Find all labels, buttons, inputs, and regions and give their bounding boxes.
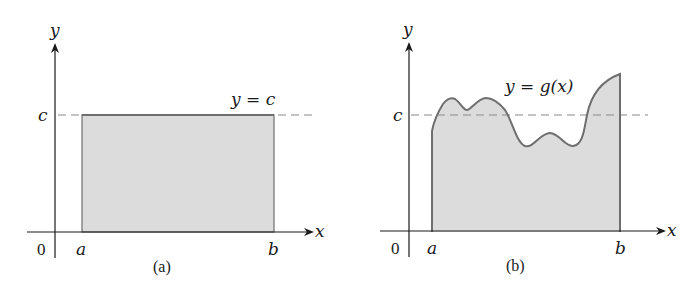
- x-axis-label: x: [315, 221, 325, 241]
- interval-end-label: b: [615, 238, 626, 258]
- panel-a: y x c y = c 0 a b (a): [27, 20, 325, 276]
- function-label: y = g(x): [504, 76, 573, 96]
- panel-caption: (a): [153, 258, 171, 276]
- interval-start-label: a: [427, 238, 437, 258]
- level-label-c: c: [38, 105, 48, 125]
- y-axis-label: y: [49, 20, 60, 40]
- interval-end-label: b: [268, 239, 279, 259]
- panel-b: y x c y = g(x) 0 a b (b): [380, 19, 677, 275]
- origin-label: 0: [37, 240, 46, 259]
- shaded-rectangle: [82, 115, 274, 232]
- y-axis-label: y: [402, 19, 413, 39]
- function-label: y = c: [230, 89, 276, 109]
- level-label-c: c: [393, 105, 403, 125]
- interval-start-label: a: [76, 239, 86, 259]
- mean-value-diagram: y x c y = c 0 a b (a) y x c y = g(x) 0 a…: [0, 0, 697, 294]
- origin-label: 0: [391, 239, 400, 258]
- x-axis-label: x: [667, 220, 677, 240]
- panel-caption: (b): [506, 257, 525, 275]
